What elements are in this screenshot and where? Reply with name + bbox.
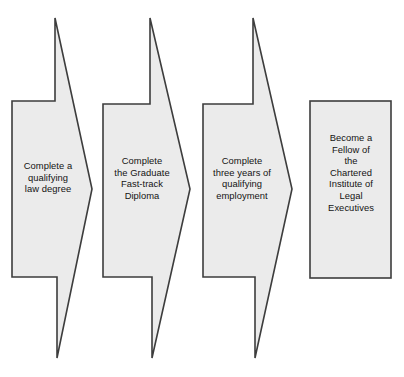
step-4-rectangle-shape[interactable] [310, 101, 391, 278]
step-2-chevron-shape[interactable] [103, 18, 190, 358]
step-1-chevron-shape[interactable] [12, 18, 92, 358]
flow-shapes-canvas [0, 0, 404, 377]
process-flow-diagram: Complete a qualifying law degree Complet… [0, 0, 404, 377]
step-3-chevron-shape[interactable] [203, 18, 292, 358]
